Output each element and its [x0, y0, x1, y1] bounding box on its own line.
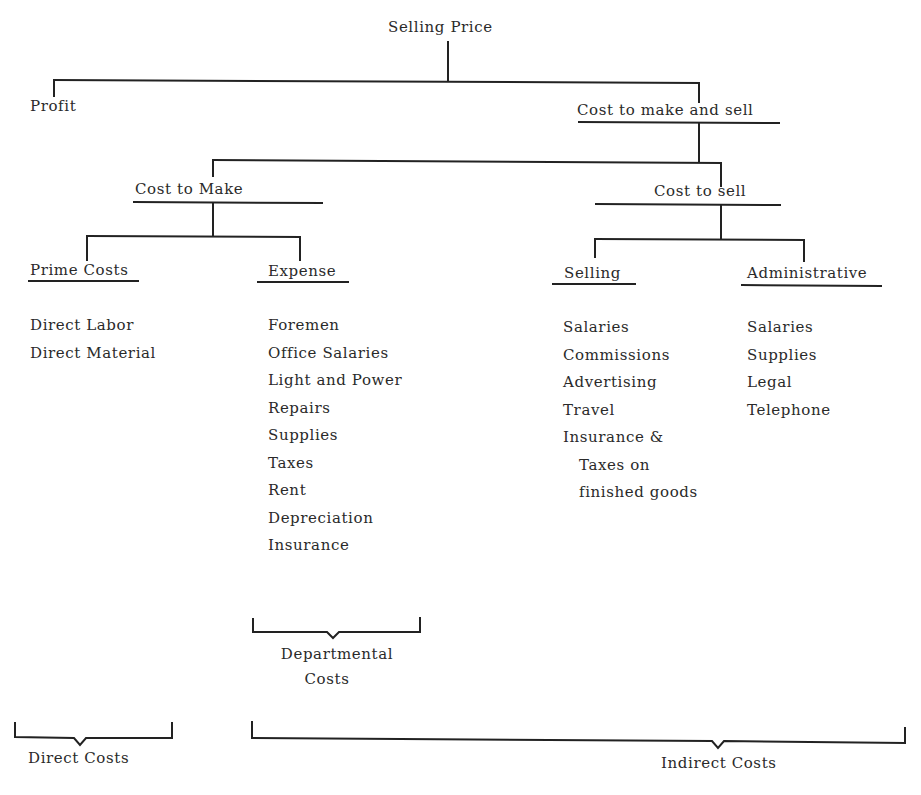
group-label-departmental: Departmental: [253, 645, 421, 663]
list-item: Direct Labor: [30, 312, 156, 340]
list-item: Rent: [268, 477, 402, 505]
list-item: Taxes on: [563, 452, 698, 480]
list-item: Supplies: [747, 342, 831, 370]
list-item: Insurance: [268, 532, 402, 560]
list-item: Taxes: [268, 450, 402, 478]
list-item: Light and Power: [268, 367, 402, 395]
list-item: finished goods: [563, 479, 698, 507]
group-label-indirect-costs: Indirect Costs: [661, 754, 777, 772]
group-label-departmental-costs: Costs: [253, 670, 401, 688]
list-item: Advertising: [563, 369, 698, 397]
list-item: Salaries: [563, 314, 698, 342]
list-item: Office Salaries: [268, 340, 402, 368]
list-item: Salaries: [747, 314, 831, 342]
list-item: Repairs: [268, 395, 402, 423]
list-item: Depreciation: [268, 505, 402, 533]
administrative-list: Salaries Supplies Legal Telephone: [747, 314, 831, 424]
node-prime-costs: Prime Costs: [30, 261, 128, 279]
list-item: Telephone: [747, 397, 831, 425]
node-selling-price: Selling Price: [388, 18, 493, 36]
list-item: Direct Material: [30, 340, 156, 368]
list-item: Foremen: [268, 312, 402, 340]
list-item: Supplies: [268, 422, 402, 450]
list-item: Legal: [747, 369, 831, 397]
prime-costs-list: Direct Labor Direct Material: [30, 312, 156, 367]
node-cost-to-make: Cost to Make: [135, 180, 243, 198]
node-administrative: Administrative: [747, 264, 867, 282]
list-item: Travel: [563, 397, 698, 425]
node-selling: Selling: [564, 264, 621, 282]
selling-list: Salaries Commissions Advertising Travel …: [563, 314, 698, 507]
node-expense: Expense: [268, 262, 336, 280]
node-profit: Profit: [30, 97, 76, 115]
group-label-direct-costs: Direct Costs: [28, 749, 129, 767]
list-item: Insurance &: [563, 424, 698, 452]
node-cost-to-make-and-sell: Cost to make and sell: [577, 101, 753, 119]
list-item: Commissions: [563, 342, 698, 370]
expense-list: Foremen Office Salaries Light and Power …: [268, 312, 402, 560]
node-cost-to-sell: Cost to sell: [654, 182, 746, 200]
